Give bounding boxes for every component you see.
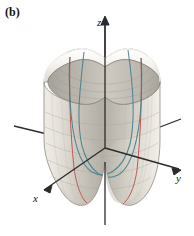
surface-body bbox=[44, 49, 160, 206]
surface-inner-bowl bbox=[48, 60, 160, 105]
axis-x-arrowhead bbox=[44, 185, 52, 193]
axis-label-z: z bbox=[96, 16, 102, 28]
figure-container: (b) bbox=[0, 0, 194, 236]
axis-label-x: x bbox=[32, 192, 38, 204]
surface-plot-canvas: z x y bbox=[0, 0, 194, 236]
axis-label-y: y bbox=[175, 172, 181, 184]
axis-z-arrowhead bbox=[101, 16, 109, 25]
